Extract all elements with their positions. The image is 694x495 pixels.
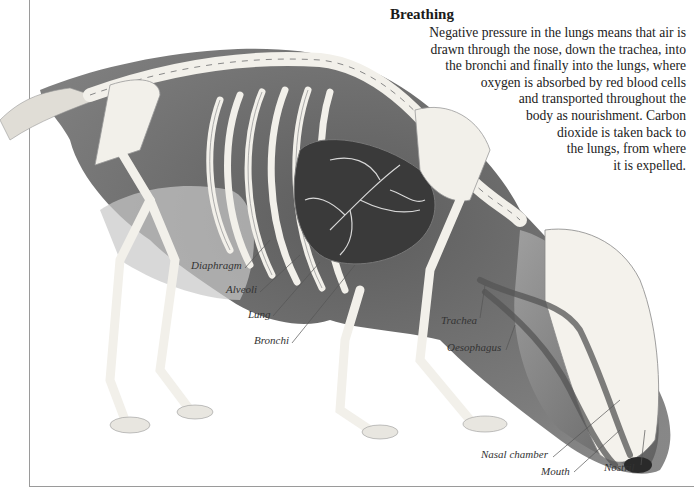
section-heading: Breathing — [390, 6, 454, 23]
label-diaphragm: Diaphragm — [191, 259, 242, 271]
description-line: oxygen is absorbed by red blood cells — [376, 75, 686, 92]
label-alveoli: Alveoli — [226, 283, 257, 295]
description-line: the bronchi and finally into the lungs, … — [376, 58, 686, 75]
paws — [110, 405, 507, 439]
label-nostril: Nostril — [604, 461, 635, 473]
description-line: Negative pressure in the lungs means tha… — [376, 25, 686, 42]
description-line: body as nourishment. Carbon — [376, 108, 686, 125]
label-nasal-chamber: Nasal chamber — [481, 448, 548, 460]
description-text: Negative pressure in the lungs means tha… — [376, 25, 686, 174]
description-line: drawn through the nose, down the trachea… — [376, 42, 686, 59]
label-bronchi: Bronchi — [254, 334, 289, 346]
label-oesophagus: Oesophagus — [447, 341, 501, 353]
label-lung: Lung — [248, 308, 271, 320]
description-line: the lungs, from where — [376, 141, 686, 158]
description-line: it is expelled. — [376, 158, 686, 175]
label-mouth: Mouth — [541, 465, 570, 477]
description-line: and transported throughout the — [376, 91, 686, 108]
description-line: dioxide is taken back to — [376, 125, 686, 142]
label-trachea: Trachea — [441, 314, 477, 326]
